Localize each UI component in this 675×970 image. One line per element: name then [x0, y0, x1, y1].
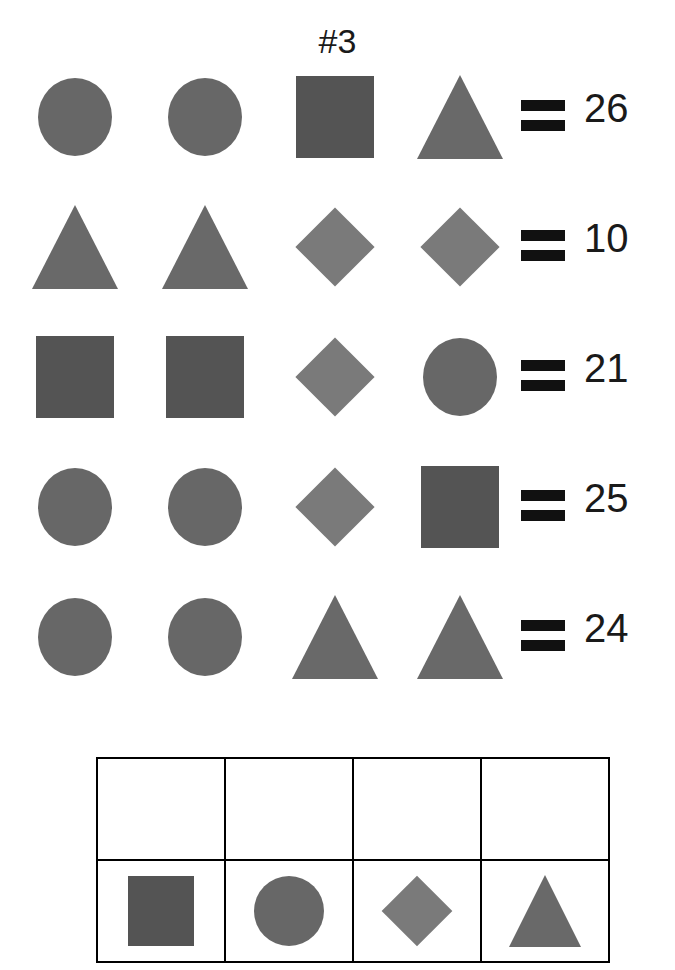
- answer-cell-square[interactable]: [97, 758, 225, 860]
- equation-shape-cell: [20, 192, 130, 302]
- equation-total: 21: [584, 346, 674, 391]
- equation-shape-cell: [280, 322, 390, 432]
- circle-shape: [168, 598, 242, 676]
- page-title: #3: [0, 22, 675, 61]
- equation-row: 10: [0, 192, 675, 322]
- equation-total: 25: [584, 476, 674, 521]
- equation-shape-cell: [280, 582, 390, 692]
- legend-cell-square: [97, 860, 225, 962]
- equation-shape-cell: [405, 322, 515, 432]
- equation-shape-cell: [405, 192, 515, 302]
- square-shape: [36, 336, 114, 418]
- triangle-shape: [417, 75, 503, 159]
- answer-value-circle: [226, 759, 352, 859]
- legend-row: [97, 860, 609, 962]
- equals-icon: [521, 358, 565, 394]
- circle-shape: [38, 468, 112, 546]
- circle-shape: [423, 338, 497, 416]
- square-shape: [128, 876, 194, 946]
- circle-shape: [254, 876, 324, 946]
- legend-cell-triangle: [481, 860, 609, 962]
- diamond-shape: [420, 207, 499, 286]
- diamond-shape: [295, 207, 374, 286]
- legend-cell-circle: [225, 860, 353, 962]
- answer-cell-triangle[interactable]: [481, 758, 609, 860]
- equation-shape-cell: [150, 582, 260, 692]
- equation-shape-cell: [405, 62, 515, 172]
- equation-shape-cell: [280, 192, 390, 302]
- triangle-shape: [509, 875, 581, 947]
- equation-shape-cell: [150, 192, 260, 302]
- equation-total: 10: [584, 216, 674, 261]
- equations-list: 26 10 21 25 24: [0, 62, 675, 712]
- circle-shape: [168, 78, 242, 156]
- answer-table: [96, 757, 610, 963]
- answer-value-triangle: [482, 759, 608, 859]
- equation-shape-cell: [20, 452, 130, 562]
- equation-row: 24: [0, 582, 675, 712]
- equation-row: 21: [0, 322, 675, 452]
- equation-shape-cell: [20, 582, 130, 692]
- diamond-shape: [295, 467, 374, 546]
- answer-cell-circle[interactable]: [225, 758, 353, 860]
- equals-icon: [521, 98, 565, 134]
- square-shape: [421, 466, 499, 548]
- equation-shape-cell: [280, 452, 390, 562]
- square-shape: [166, 336, 244, 418]
- equation-shape-cell: [20, 62, 130, 172]
- equation-shape-cell: [150, 452, 260, 562]
- equation-total: 26: [584, 86, 674, 131]
- equation-shape-cell: [150, 62, 260, 172]
- circle-shape: [38, 78, 112, 156]
- square-shape: [296, 76, 374, 158]
- equation-shape-cell: [405, 582, 515, 692]
- answer-cell-diamond[interactable]: [353, 758, 481, 860]
- equation-row: 25: [0, 452, 675, 582]
- equation-shape-cell: [20, 322, 130, 432]
- answer-value-diamond: [354, 759, 480, 859]
- diamond-shape: [382, 876, 453, 947]
- answer-value-square: [98, 759, 224, 859]
- equals-icon: [521, 488, 565, 524]
- circle-shape: [168, 468, 242, 546]
- equation-shape-cell: [405, 452, 515, 562]
- equation-total: 24: [584, 606, 674, 651]
- equation-shape-cell: [150, 322, 260, 432]
- triangle-shape: [292, 595, 378, 679]
- legend-cell-diamond: [353, 860, 481, 962]
- equation-shape-cell: [280, 62, 390, 172]
- equals-icon: [521, 228, 565, 264]
- circle-shape: [38, 598, 112, 676]
- equals-icon: [521, 618, 565, 654]
- equation-row: 26: [0, 62, 675, 192]
- diamond-shape: [295, 337, 374, 416]
- answer-input-row: [97, 758, 609, 860]
- triangle-shape: [417, 595, 503, 679]
- triangle-shape: [162, 205, 248, 289]
- triangle-shape: [32, 205, 118, 289]
